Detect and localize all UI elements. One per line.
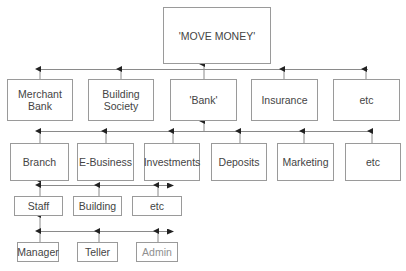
node-etc-level3: etc bbox=[132, 196, 182, 216]
node-label: etc bbox=[359, 94, 373, 106]
node-label: Admin bbox=[142, 246, 172, 258]
node-label: Marketing bbox=[282, 156, 328, 168]
node-teller: Teller bbox=[77, 242, 118, 262]
node-bank: 'Bank' bbox=[170, 79, 237, 121]
node-label: Investments bbox=[144, 156, 201, 168]
root-node-move-money: 'MOVE MONEY' bbox=[163, 7, 271, 64]
node-label: Branch bbox=[23, 156, 56, 168]
node-label: 'Bank' bbox=[190, 94, 218, 106]
node-e-business: E-Business bbox=[77, 143, 134, 181]
node-deposits: Deposits bbox=[211, 143, 267, 181]
node-building: Building bbox=[73, 196, 122, 216]
node-building-society: Building Society bbox=[88, 79, 154, 121]
node-staff: Staff bbox=[14, 196, 63, 216]
node-investments: Investments bbox=[144, 143, 200, 181]
node-merchant-bank: Merchant Bank bbox=[7, 79, 73, 121]
node-branch: Branch bbox=[10, 143, 69, 181]
node-etc-level1: etc bbox=[333, 79, 400, 121]
node-label: Staff bbox=[28, 200, 49, 212]
node-label: Manager bbox=[17, 246, 58, 258]
node-marketing: Marketing bbox=[277, 143, 334, 181]
node-label: Building Society bbox=[102, 88, 139, 112]
node-label: Insurance bbox=[261, 94, 307, 106]
node-label: etc bbox=[150, 200, 164, 212]
node-label: Deposits bbox=[219, 156, 260, 168]
node-etc-level2: etc bbox=[345, 143, 401, 181]
node-label: Building bbox=[79, 200, 116, 212]
node-manager: Manager bbox=[17, 242, 59, 262]
node-label: Teller bbox=[85, 246, 110, 258]
node-label: etc bbox=[366, 156, 380, 168]
node-label: Merchant Bank bbox=[18, 88, 62, 112]
node-label: 'MOVE MONEY' bbox=[179, 30, 255, 42]
node-insurance: Insurance bbox=[251, 79, 318, 121]
node-label: E-Business bbox=[79, 156, 132, 168]
node-admin: Admin bbox=[136, 242, 178, 262]
